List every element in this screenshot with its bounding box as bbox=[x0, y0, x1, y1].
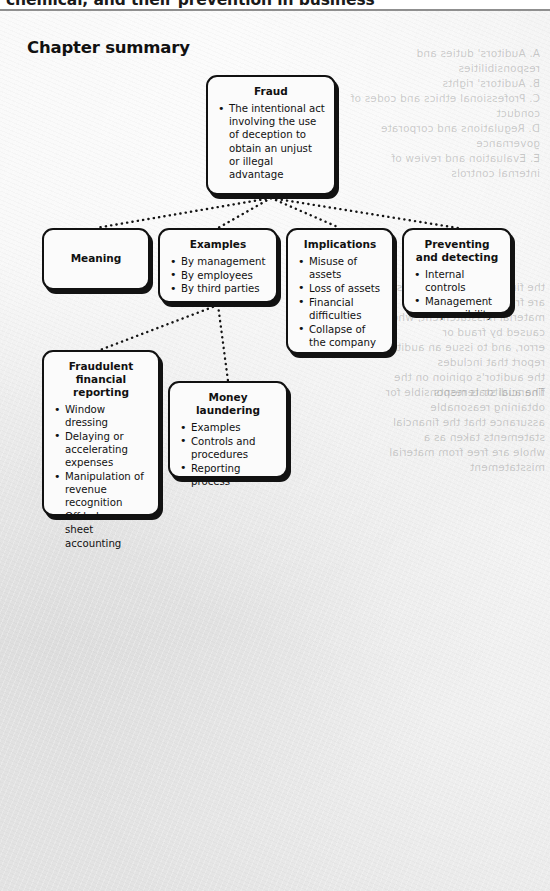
list-item: By employees bbox=[169, 269, 267, 282]
node-fraudulent-financial-reporting[interactable]: Fraudulent financial reporting Window dr… bbox=[42, 350, 160, 516]
node-meaning[interactable]: Meaning bbox=[42, 228, 150, 290]
list-item: Financial difficulties bbox=[297, 296, 383, 322]
node-implications-title: Implications bbox=[297, 238, 383, 251]
node-implications-list: Misuse of assets Loss of assets Financia… bbox=[297, 255, 383, 349]
list-item: Examples bbox=[179, 421, 277, 434]
running-header-text: chemical, and their prevention in busine… bbox=[6, 0, 375, 9]
node-examples-list: By management By employees By third part… bbox=[169, 255, 267, 296]
list-item: Delaying or accelerating expenses bbox=[53, 430, 149, 470]
node-fraud-list: The intentional act involving the use of… bbox=[217, 102, 325, 181]
node-meaning-title: Meaning bbox=[53, 252, 139, 265]
list-item: The intentional act involving the use of… bbox=[217, 102, 325, 181]
page-title: Chapter summary bbox=[27, 38, 190, 57]
list-item: Manipulation of revenue recognition bbox=[53, 470, 149, 510]
list-item: Reporting process bbox=[179, 462, 277, 488]
node-implications[interactable]: Implications Misuse of assets Loss of as… bbox=[286, 228, 394, 354]
node-money-laundering-title: Money laundering bbox=[179, 391, 277, 417]
node-preventing-detecting-list: Internal controls Management responsibil… bbox=[413, 268, 501, 321]
node-money-laundering-list: Examples Controls and procedures Reporti… bbox=[179, 421, 277, 488]
node-examples-title: Examples bbox=[169, 238, 267, 251]
running-header-strip: chemical, and their prevention in busine… bbox=[0, 0, 550, 9]
list-item: Window dressing bbox=[53, 403, 149, 429]
list-item: Collapse of the company bbox=[297, 323, 383, 349]
list-item: By management bbox=[169, 255, 267, 268]
list-item: Misuse of assets bbox=[297, 255, 383, 281]
node-examples[interactable]: Examples By management By employees By t… bbox=[158, 228, 278, 303]
page-canvas: chemical, and their prevention in busine… bbox=[0, 0, 550, 891]
list-item: Internal controls bbox=[413, 268, 501, 294]
list-item: Loss of assets bbox=[297, 282, 383, 295]
node-fraudulent-financial-reporting-list: Window dressing Delaying or accelerating… bbox=[53, 403, 149, 550]
list-item: Controls and procedures bbox=[179, 435, 277, 461]
node-preventing-detecting-title: Preventing and detecting bbox=[413, 238, 501, 264]
list-item: By third parties bbox=[169, 282, 267, 295]
list-item: Management responsibility bbox=[413, 295, 501, 321]
node-preventing-detecting[interactable]: Preventing and detecting Internal contro… bbox=[402, 228, 512, 314]
list-item: Off balance sheet accounting bbox=[53, 510, 149, 550]
node-fraud[interactable]: Fraud The intentional act involving the … bbox=[206, 75, 336, 195]
node-fraud-title: Fraud bbox=[217, 85, 325, 98]
node-fraudulent-financial-reporting-title: Fraudulent financial reporting bbox=[53, 360, 149, 399]
node-money-laundering[interactable]: Money laundering Examples Controls and p… bbox=[168, 381, 288, 478]
